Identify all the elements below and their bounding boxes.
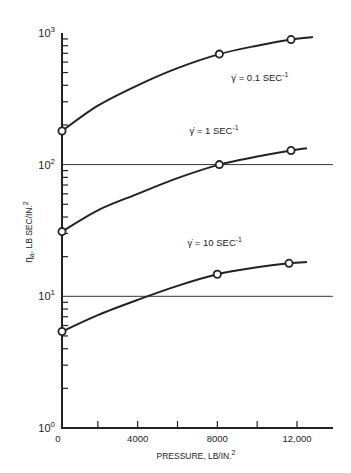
reference-lines [62, 165, 333, 297]
series-label: γ̇ = 0.1 SEC-1 [231, 71, 288, 83]
viscosity-pressure-chart: 100101102103 04000800012,000 γ̇ = 0.1 SE… [0, 0, 351, 473]
y-tick-label: 101 [38, 288, 55, 302]
data-point-marker [216, 161, 223, 168]
data-point-marker [285, 260, 292, 267]
x-tick-label: 4000 [127, 433, 148, 444]
x-axis-title: PRESSURE, LB/IN.2 [156, 449, 235, 461]
x-tick-label: 12,000 [282, 433, 311, 444]
x-tick-label: 0 [55, 433, 60, 444]
data-point-marker [214, 271, 221, 278]
axes [61, 33, 333, 429]
x-tick-label: 8000 [207, 433, 228, 444]
data-point-marker [58, 328, 65, 335]
data-point-marker [58, 228, 65, 235]
data-point-marker [216, 51, 223, 58]
data-point-marker [287, 36, 294, 43]
data-point-marker [58, 127, 65, 134]
y-tick-label: 100 [38, 420, 55, 434]
x-axis-ticks [98, 421, 297, 428]
data-point-marker [287, 147, 294, 154]
y-tick-label: 103 [38, 25, 55, 39]
series-label: γ̇ = 10 SEC-1 [187, 236, 242, 248]
series-label: γ̇ = 1 SEC-1 [189, 124, 238, 136]
y-tick-labels: 100101102103 [38, 25, 55, 434]
y-tick-label: 102 [38, 157, 55, 171]
series-curve [62, 37, 313, 131]
series-curve [62, 148, 307, 231]
x-tick-labels: 04000800012,000 [55, 433, 311, 444]
y-axis-title: ηa, LB SEC/IN.2 [22, 201, 35, 263]
